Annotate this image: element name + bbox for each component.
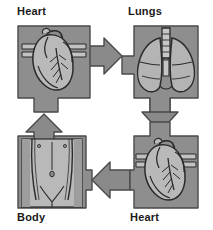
label-heart-bottom: Heart — [130, 211, 159, 223]
arrow-heart-to-body — [92, 162, 130, 198]
node-lungs — [122, 26, 198, 112]
node-body — [18, 136, 92, 208]
label-body: Body — [17, 211, 45, 223]
diagram-canvas — [0, 0, 213, 230]
circulation-cycle-diagram: Heart Lungs Heart Body — [0, 0, 213, 230]
node-heart-bottom — [130, 122, 198, 208]
node-heart-top — [18, 26, 90, 112]
label-heart-top: Heart — [17, 5, 46, 17]
body-torso-icon — [22, 139, 82, 207]
label-lungs: Lungs — [128, 5, 162, 17]
